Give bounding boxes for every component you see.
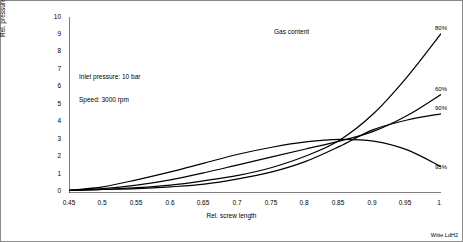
x-tick-2: 0.55 xyxy=(124,199,148,206)
corner-note: Witte LdH2 xyxy=(431,232,458,238)
y-tick-7: 7 xyxy=(45,65,61,72)
x-tick-7: 0.8 xyxy=(292,199,316,206)
plot-area xyxy=(69,17,441,193)
x-axis-label: Rel. screw length xyxy=(1,212,462,219)
y-tick-8: 8 xyxy=(45,47,61,54)
y-tick-5: 5 xyxy=(45,100,61,107)
x-tick-8: 0.85 xyxy=(326,199,350,206)
curve-90 xyxy=(69,114,441,191)
x-tick-5: 0.7 xyxy=(225,199,249,206)
x-tick-3: 0.6 xyxy=(158,199,182,206)
y-tick-4: 4 xyxy=(45,117,61,124)
y-tick-10: 10 xyxy=(45,13,61,20)
y-axis-label: Rel. pressure increase per length xyxy=(0,0,6,37)
y-tick-3: 3 xyxy=(45,135,61,142)
x-tick-0: 0.45 xyxy=(57,199,81,206)
y-tick-1: 1 xyxy=(45,170,61,177)
y-tick-2: 2 xyxy=(45,152,61,159)
x-tick-10: 0.95 xyxy=(393,199,417,206)
x-tick-9: 0.9 xyxy=(360,199,384,206)
x-tick-11: 1 xyxy=(427,199,451,206)
curve-95 xyxy=(69,139,441,190)
curve-80 xyxy=(69,34,441,191)
x-tick-6: 0.75 xyxy=(259,199,283,206)
x-tick-1: 0.5 xyxy=(90,199,114,206)
x-tick-4: 0.65 xyxy=(191,199,215,206)
y-tick-9: 9 xyxy=(45,30,61,37)
chart-frame: Rel. pressure increase per length 10 9 8… xyxy=(0,0,463,242)
curves xyxy=(69,34,441,191)
y-tick-6: 6 xyxy=(45,82,61,89)
axes xyxy=(69,17,441,193)
y-tick-0: 0 xyxy=(45,187,61,194)
